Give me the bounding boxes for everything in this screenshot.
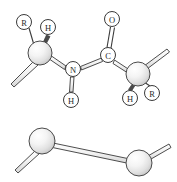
atom-label-c-carbonyl-text: C: [105, 51, 111, 61]
atom-label-n-amide: N: [66, 62, 81, 77]
atom-label-o-top: O: [105, 12, 120, 27]
atom-label-h-left-text: H: [45, 23, 51, 33]
sphere-alpha-carbon-left: [28, 41, 52, 65]
atom-label-c-carbonyl: C: [101, 48, 116, 63]
atom-label-r-right: R: [145, 86, 160, 101]
chemical-structure-figure: R H O N C H: [0, 0, 177, 182]
bond-n-to-h: [70, 77, 75, 92]
atom-label-r-left-text: R: [21, 18, 27, 28]
atom-label-h-right: H: [123, 91, 138, 106]
sphere-backbone-atom-left: [29, 128, 55, 154]
atom-label-h-amide-text: H: [68, 96, 74, 106]
sphere-alpha-carbon-right: [126, 62, 150, 86]
atom-label-h-amide: H: [64, 93, 79, 108]
structure-canvas: R H O N C H: [0, 0, 177, 182]
atom-label-r-right-text: R: [149, 89, 155, 99]
atom-label-h-left: H: [41, 20, 56, 35]
atom-label-r-left: R: [17, 15, 32, 30]
atom-label-n-amide-text: N: [70, 65, 76, 75]
atom-label-h-right-text: H: [127, 94, 133, 104]
sphere-backbone-atom-right: [126, 150, 152, 176]
atom-label-o-top-text: O: [109, 15, 115, 25]
